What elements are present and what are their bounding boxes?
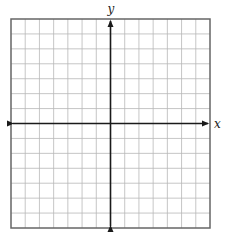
y-axis-label: y xyxy=(107,2,115,16)
x-axis-label: x xyxy=(214,117,221,131)
coordinate-plane: x y xyxy=(0,0,225,233)
